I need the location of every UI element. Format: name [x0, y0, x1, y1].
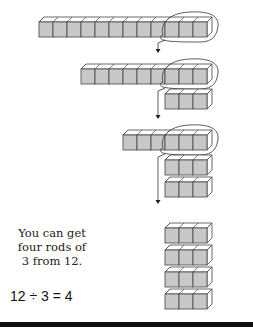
caption-line: four rods of: [6, 240, 98, 254]
rod-of-6: [123, 130, 212, 150]
result-rod-of-3: [165, 223, 212, 243]
bottom-divider: [0, 322, 253, 327]
caption-text: You can get four rods of 3 from 12.: [6, 226, 98, 268]
rod-of-3: [165, 155, 212, 175]
caption-line: You can get: [6, 226, 98, 240]
rod-of-3: [165, 177, 212, 197]
result-rod-of-3: [165, 267, 212, 287]
down-arrow: [156, 40, 166, 53]
down-arrow: [156, 154, 166, 204]
result-rod-of-3: [165, 289, 212, 309]
rod-of-12: [39, 17, 212, 37]
rod-of-3: [165, 89, 212, 109]
result-rod-of-3: [165, 245, 212, 265]
down-arrow: [156, 88, 166, 119]
division-equation: 12 ÷ 3 = 4: [10, 288, 73, 304]
division-rods-diagram: [0, 0, 253, 332]
caption-line: 3 from 12.: [6, 254, 98, 268]
rod-of-9: [81, 64, 212, 84]
